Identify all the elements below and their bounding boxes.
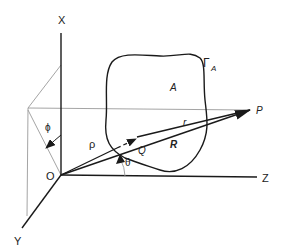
r-vector <box>137 110 250 137</box>
rho-label: ρ <box>89 138 95 150</box>
guide-phi-plane <box>28 110 61 175</box>
y-axis <box>22 175 61 228</box>
boundary-label: Γ <box>203 56 210 70</box>
area-label: A <box>169 82 177 93</box>
point-q-label: Q <box>138 145 146 156</box>
r-label: r <box>183 117 187 128</box>
phi-label: ϕ <box>45 122 51 133</box>
origin-label: O <box>46 170 55 182</box>
z-axis <box>61 175 257 177</box>
point-p-label: P <box>256 105 263 116</box>
diagram-canvas: X Y Z O A Γ A P Q ρ r R ϕ θ <box>0 0 283 249</box>
theta-label: θ <box>125 157 131 168</box>
R-label: R <box>170 139 178 150</box>
x-axis-label: X <box>58 14 66 26</box>
guide-to-x-axis <box>28 65 61 108</box>
boundary-subscript: A <box>210 64 216 73</box>
guide-vertical-projection <box>27 108 28 216</box>
phi-arc <box>46 135 61 148</box>
axes <box>22 33 257 228</box>
z-axis-label: Z <box>262 172 269 184</box>
y-axis-label: Y <box>14 235 22 247</box>
rho-vector-dashed <box>117 139 136 148</box>
rho-vector-solid <box>61 148 117 175</box>
